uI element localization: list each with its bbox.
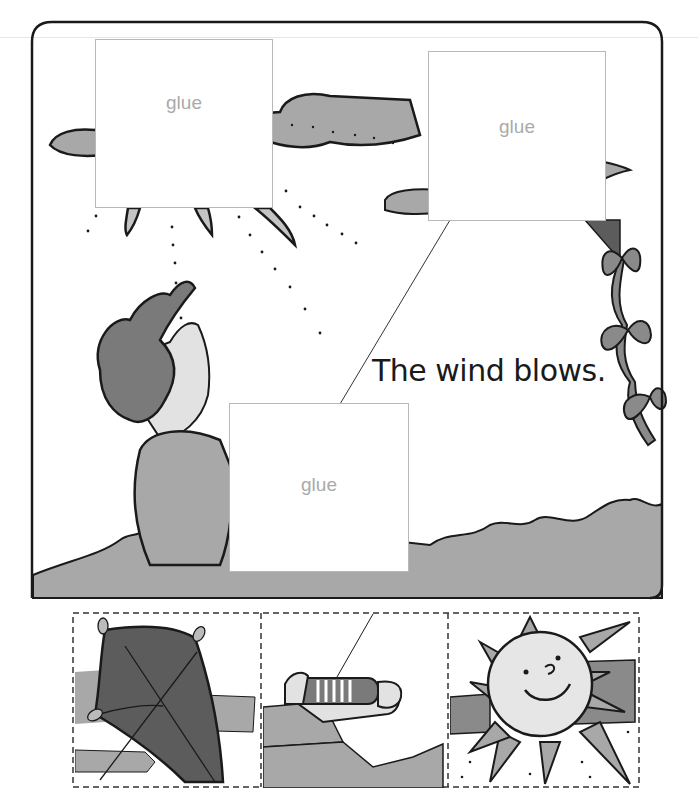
story-scene: glue glue glue: [30, 20, 670, 600]
glue-box-top-right[interactable]: glue: [428, 51, 606, 221]
glue-label: glue: [429, 116, 605, 138]
glue-box-center[interactable]: glue: [229, 403, 409, 572]
kite-icon: [75, 612, 260, 788]
hand-spool-icon: [263, 612, 447, 788]
story-sentence: The wind blows.: [372, 353, 606, 388]
cutout-strip: [72, 612, 642, 790]
cutout-hand-with-spool[interactable]: [263, 612, 447, 788]
glue-label: glue: [230, 474, 408, 496]
sun-icon: [450, 612, 638, 788]
cutout-sun[interactable]: [450, 612, 638, 788]
cutout-kite[interactable]: [75, 612, 260, 788]
glue-box-top-left[interactable]: glue: [95, 39, 273, 208]
glue-label: glue: [96, 92, 272, 114]
